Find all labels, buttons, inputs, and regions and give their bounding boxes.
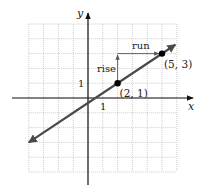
x-tick-label: 1 [100,101,106,112]
y-axis-label: y [76,7,84,20]
y-tick-label: 1 [78,78,84,89]
graph-line-segment [29,98,96,142]
point-marker [114,80,120,86]
graph-svg: x y 1 1 rise run (2, 1)(5, 3) [0,0,204,193]
points: (2, 1)(5, 3) [114,50,192,99]
point-label: (5, 3) [164,58,192,70]
point-label: (2, 1) [120,87,148,99]
rise-label: rise [97,63,116,74]
x-axis-label: x [188,100,195,113]
run-label: run [132,40,150,51]
coordinate-plane-figure: x y 1 1 rise run (2, 1)(5, 3) [0,0,204,193]
point-marker [159,50,165,56]
